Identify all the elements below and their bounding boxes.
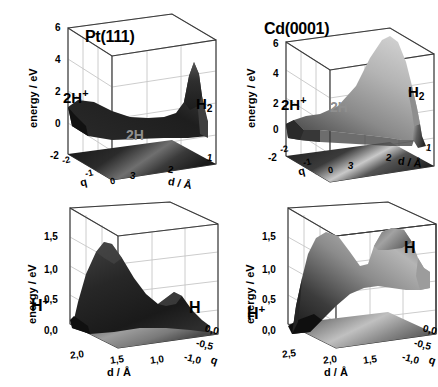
xtick-br-25: 2,5 (281, 347, 296, 360)
axis-title-energy-tr: energy / eV (245, 68, 257, 128)
ztick-tr-6: 6 (273, 38, 279, 49)
label-h2-tl-sub: 2 (207, 103, 213, 114)
panel-cd0001-2h: energy / eV 6 4 2 0 -2 (218, 0, 437, 196)
ztick-bl-00: 0,0 (44, 325, 58, 336)
label-h-plus-br: H+ (247, 304, 265, 322)
label-2h-plus-tr-sup: + (300, 94, 306, 106)
xtick-bl-15: 1,5 (109, 353, 124, 366)
ztick-br-10: 1,0 (262, 264, 276, 275)
ztick-tl-6: 6 (55, 22, 61, 33)
xtick-bl-20: 2,0 (69, 348, 84, 361)
label-2h-plus-tl-sup: + (82, 87, 88, 99)
ztick-bl-15: 1,5 (44, 231, 58, 242)
label-h-plus-bl: H+ (31, 296, 49, 314)
ztick-tl-m2: -2 (50, 150, 59, 161)
label-h2-tr-text: H (408, 83, 419, 100)
xtick-br-20: 2,0 (322, 353, 337, 366)
xtick-br-15: 1,5 (362, 353, 377, 366)
label-2h-tl: 2H (126, 128, 144, 142)
label-h-bl: H (189, 300, 201, 316)
label-2h-plus-tl-text: 2H (63, 89, 82, 106)
plot-box-bl (70, 202, 218, 362)
label-h2-tr: H2 (408, 84, 425, 99)
label-h-plus-br-text: H (247, 305, 259, 322)
xtick-tl-3: 3 (129, 170, 136, 182)
panel-title-pt111: Pt(111) (85, 28, 135, 46)
axis-title-d-br: d / Å (324, 366, 348, 378)
ztick-tl-0: 0 (55, 118, 61, 129)
ztick-tl-4: 4 (55, 54, 61, 65)
xtick-tr-3: 3 (347, 160, 354, 172)
ztick-tr-m2: -2 (268, 152, 277, 163)
label-2h-plus-tr-text: 2H (281, 96, 300, 113)
panel-cd0001-h: energy / eV 1,5 1,0 0,5 0,0 (218, 196, 437, 387)
panel-pt111-h: energy / eV 1,5 1,0 0,5 0,0 (0, 196, 219, 387)
xtick-tl-1: 1 (206, 152, 213, 164)
panel-title-cd0001: Cd(0001) (264, 20, 329, 38)
panel-pt111-2h: energy / eV 6 4 2 0 -2 (0, 0, 219, 196)
label-h-plus-bl-text: H (31, 297, 43, 314)
xtick-tr-2: 2 (385, 152, 392, 164)
axis-title-energy-bl: energy / eV (26, 264, 38, 324)
ztick-br-00: 0,0 (262, 325, 276, 336)
label-h2-tl: H2 (196, 96, 213, 111)
label-h-plus-br-sup: + (259, 303, 266, 315)
label-h-plus-bl-sup: + (43, 295, 50, 307)
xtick-tr-1: 1 (425, 142, 432, 154)
ztick-tr-4: 4 (273, 68, 279, 79)
xtick-tl-2: 2 (167, 164, 174, 176)
plot-box-br (288, 202, 436, 362)
axis-title-d-bl: d / Å (107, 366, 131, 378)
ztick-tl-2: 2 (55, 86, 61, 97)
label-h-br: H (404, 240, 416, 256)
ztick-tr-0: 0 (273, 124, 279, 135)
label-2h-plus-tl: 2H+ (63, 88, 89, 105)
xtick-bl-10: 1,0 (149, 353, 164, 366)
label-h2-tr-sub: 2 (419, 91, 425, 102)
label-2h-plus-tr: 2H+ (281, 95, 307, 112)
ztick-tr-2: 2 (273, 98, 279, 109)
ztick-bl-10: 1,0 (44, 264, 58, 275)
label-2h-tr: 2H (330, 100, 348, 114)
label-h2-tl-text: H (196, 95, 207, 112)
ztick-br-15: 1,5 (262, 231, 276, 242)
axis-title-energy-tl: energy / eV (27, 68, 39, 128)
